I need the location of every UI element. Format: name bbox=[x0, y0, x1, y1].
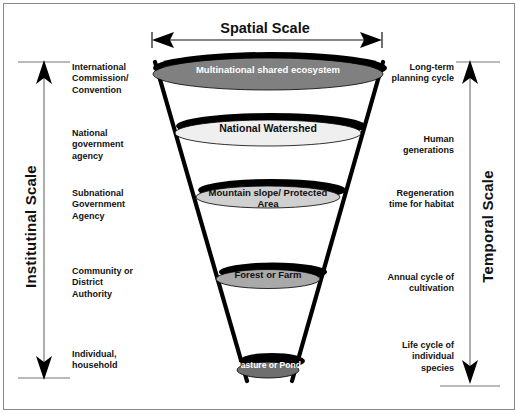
institutional-scale-title: Institutinal Scale bbox=[22, 161, 39, 293]
right-axis-label-2: Human generations bbox=[382, 134, 454, 157]
left-axis-label-4: Community or District Authority bbox=[72, 266, 140, 300]
right-axis-label-5: Life cycle of individual species bbox=[382, 340, 454, 374]
temporal-scale-title: Temporal Scale bbox=[479, 161, 496, 293]
left-axis-label-1: International Commission/ Convention bbox=[72, 62, 140, 96]
left-axis-label-5: Individual, household bbox=[72, 349, 140, 372]
funnel-level-1 bbox=[153, 52, 387, 90]
spatial-scale-title: Spatial Scale bbox=[150, 20, 380, 36]
funnel-level-2 bbox=[175, 113, 366, 146]
funnel-walls bbox=[155, 62, 383, 381]
left-axis-label-3: Subnational Government Agency bbox=[72, 188, 140, 222]
funnel-level-4 bbox=[216, 263, 327, 289]
funnel-level-3 bbox=[196, 179, 346, 208]
left-axis-label-2: National government agency bbox=[72, 128, 140, 162]
funnel-level-5 bbox=[237, 353, 305, 378]
right-axis-label-3: Regeneration time for habitat bbox=[382, 188, 454, 211]
right-axis-label-1: Long-term planning cycle bbox=[382, 62, 454, 85]
right-axis-label-4: Annual cycle of cultivation bbox=[382, 272, 454, 295]
diagram-page: Spatial Scale Institutinal Scale Tempora… bbox=[0, 0, 518, 413]
